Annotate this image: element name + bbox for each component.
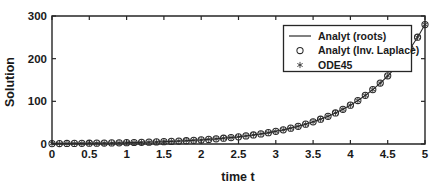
y-tick-label: 300 bbox=[28, 10, 47, 22]
y-tick-label: 200 bbox=[28, 53, 47, 65]
x-tick-label: 1.5 bbox=[156, 148, 173, 160]
legend-label: Analyt (roots) bbox=[318, 30, 386, 42]
x-tick-label: 5 bbox=[422, 148, 429, 160]
x-tick-label: 2.5 bbox=[231, 148, 248, 160]
x-tick-label: 0 bbox=[49, 148, 55, 160]
x-tick-label: 3.5 bbox=[305, 148, 322, 160]
solution-vs-time-chart: 00.511.522.533.544.55 0100200300 time t … bbox=[0, 0, 443, 189]
x-tick-label: 1 bbox=[123, 148, 130, 160]
y-tick-label: 100 bbox=[28, 95, 47, 107]
chart-legend: Analyt (roots)Analyt (Inv. Laplace)ODE45 bbox=[284, 26, 420, 72]
y-tick-label: 0 bbox=[41, 138, 47, 150]
y-axis-label: Solution bbox=[3, 57, 17, 107]
legend-label: Analyt (Inv. Laplace) bbox=[318, 44, 419, 56]
x-axis-label: time t bbox=[221, 170, 255, 184]
x-tick-label: 4 bbox=[347, 148, 354, 160]
x-tick-label: 4.5 bbox=[380, 148, 397, 160]
x-tick-label: 2 bbox=[198, 148, 204, 160]
x-tick-label: 0.5 bbox=[81, 148, 98, 160]
figure-container: 00.511.522.533.544.55 0100200300 time t … bbox=[0, 0, 443, 189]
x-tick-label: 3 bbox=[273, 148, 279, 160]
legend-label: ODE45 bbox=[318, 59, 353, 71]
